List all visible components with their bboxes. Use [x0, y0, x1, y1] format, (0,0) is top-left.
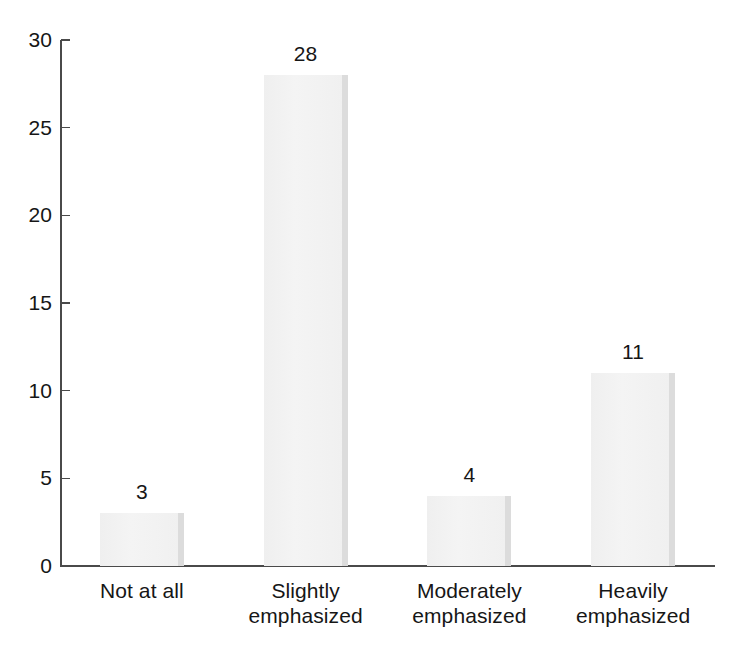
y-axis-tick [61, 215, 70, 217]
x-axis-category-label-line: Moderately [379, 578, 559, 603]
bar [591, 373, 675, 566]
y-axis-tick-label: 5 [0, 467, 52, 488]
x-axis-category-label: Slightlyemphasized [216, 578, 396, 628]
bar-fill [264, 75, 342, 566]
y-axis-tick [61, 302, 70, 304]
y-axis-tick-label-text: 5 [6, 467, 52, 488]
bar-value-label: 3 [102, 481, 182, 502]
x-axis-category-label-line: Not at all [52, 578, 232, 603]
y-axis-tick-label: 25 [0, 117, 52, 138]
bar-chart-figure: 051015202530 328411 Not at allSlightlyem… [0, 0, 741, 653]
y-axis-tick-label: 30 [0, 29, 52, 50]
y-axis-tick-label: 0 [0, 555, 52, 576]
y-axis-tick-label: 20 [0, 204, 52, 225]
bar-value-label: 11 [593, 341, 673, 362]
y-axis-tick [61, 127, 70, 129]
y-axis-tick [61, 478, 70, 480]
x-axis-category-label-line: emphasized [543, 603, 723, 628]
x-axis-category-label: Not at all [52, 578, 232, 603]
x-axis-category-label: Heavilyemphasized [543, 578, 723, 628]
y-axis-tick-label: 15 [0, 292, 52, 313]
x-axis-category-label-line: emphasized [379, 603, 559, 628]
bar-value-label: 28 [266, 43, 346, 64]
x-axis-category-label-line: Heavily [543, 578, 723, 603]
bar-value-label: 4 [429, 464, 509, 485]
x-axis-category-label-line: Slightly [216, 578, 396, 603]
y-axis-tick [61, 39, 70, 41]
y-axis-tick-label-text: 0 [6, 555, 52, 576]
bar-fill [427, 496, 505, 566]
y-axis-tick-label-text: 25 [6, 117, 52, 138]
x-axis-category-label-line: emphasized [216, 603, 396, 628]
y-axis-tick [61, 390, 70, 392]
y-axis-tick-label: 10 [0, 380, 52, 401]
bar-fill [591, 373, 669, 566]
y-axis-tick-label-text: 15 [6, 292, 52, 313]
bar [427, 496, 511, 566]
bar-fill [100, 513, 178, 566]
x-axis-category-label: Moderatelyemphasized [379, 578, 559, 628]
cropped-caption-strip [0, 640, 741, 653]
plot-area: 051015202530 328411 Not at allSlightlyem… [0, 0, 741, 653]
bar [264, 75, 348, 566]
y-axis-tick-label-text: 20 [6, 204, 52, 225]
y-axis-tick [61, 565, 70, 567]
y-axis-tick-label-text: 30 [6, 29, 52, 50]
y-axis-tick-label-text: 10 [6, 380, 52, 401]
bar [100, 513, 184, 566]
